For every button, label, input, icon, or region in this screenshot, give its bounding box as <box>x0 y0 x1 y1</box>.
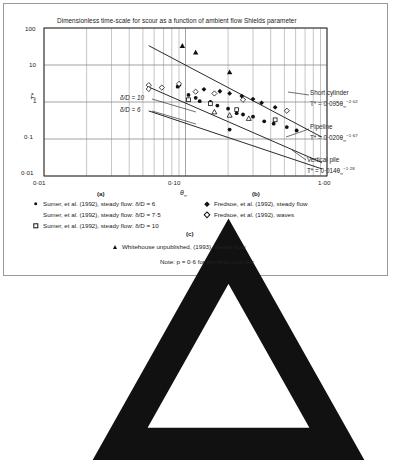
chart-figure: Dimensionless time-scale for scour as a … <box>0 0 393 281</box>
plot-canvas <box>0 0 393 281</box>
